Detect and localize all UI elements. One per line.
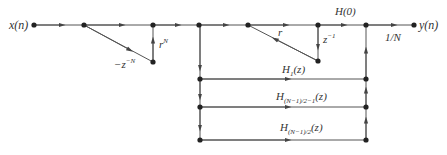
hlast-sub: (N−1)/2	[288, 128, 311, 136]
h0-label: H(0)	[335, 6, 356, 17]
node	[197, 104, 202, 109]
node	[150, 22, 155, 27]
h1-arg: (z)	[293, 63, 305, 75]
node	[197, 76, 202, 81]
node-output	[411, 22, 416, 27]
node	[363, 76, 368, 81]
delay-label: z−1	[323, 33, 336, 45]
h1-label: H1(z)	[282, 64, 305, 78]
hlast-arg: (z)	[311, 121, 323, 133]
hlast-label: H(N−1)/2(z)	[280, 122, 323, 136]
node	[363, 104, 368, 109]
r-power-exp: N	[163, 37, 168, 45]
node	[245, 22, 250, 27]
comb-gain-label: −z−N	[114, 58, 135, 70]
node	[315, 22, 320, 27]
node-input	[31, 22, 36, 27]
comb-gain-exp: −N	[126, 57, 135, 65]
output-label: y(n)	[419, 19, 438, 31]
node	[81, 22, 86, 27]
comb-gain-main: −z	[114, 58, 126, 70]
r-power-label: rN	[159, 38, 168, 50]
node	[150, 59, 155, 64]
hmid-arg: (z)	[315, 90, 327, 102]
signal-flow-graph	[0, 0, 447, 155]
hmid-label: H(N−1)/2−1(z)	[276, 91, 327, 105]
input-label: x(n)	[9, 19, 28, 31]
node	[363, 137, 368, 142]
node	[196, 22, 201, 27]
node	[197, 137, 202, 142]
scale-label: 1/N	[385, 32, 401, 43]
feedback-r-label: r	[278, 27, 282, 38]
hmid-main: H	[276, 90, 284, 102]
node	[363, 22, 368, 27]
hlast-main: H	[280, 121, 288, 133]
h1-main: H	[282, 63, 290, 75]
delay-exp: −1	[327, 32, 335, 40]
node	[315, 58, 320, 63]
hmid-sub: (N−1)/2−1	[284, 97, 315, 105]
